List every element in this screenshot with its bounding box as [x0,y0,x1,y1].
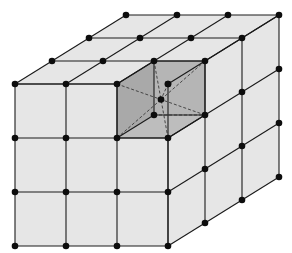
lattice-atom [165,243,172,250]
lattice-atom [114,243,121,250]
lattice-atom [63,135,70,142]
lattice-atom [12,135,19,142]
lattice-atom [86,35,93,42]
lattice-atom [49,58,56,65]
lattice-atom [12,243,19,250]
lattice-svg [0,0,292,253]
lattice-atom [188,35,195,42]
lattice-atom [239,35,246,42]
lattice-atom [137,35,144,42]
lattice-atom [202,166,209,173]
lattice-atom [276,66,283,73]
lattice-atom [114,189,121,196]
body-center-atom [158,96,165,103]
lattice-atom [239,89,246,96]
highlighted-cell-back-face [154,61,205,115]
lattice-atom [276,12,283,19]
lattice-atom [12,189,19,196]
lattice-atom [202,112,209,119]
lattice-atom [276,174,283,181]
lattice-atom [151,112,158,119]
lattice-atom [165,189,172,196]
lattice-atom [100,58,107,65]
lattice-atom [12,81,19,88]
lattice-atom [202,58,209,65]
lattice-atom [63,243,70,250]
lattice-atom [276,120,283,127]
lattice-atom [239,197,246,204]
lattice-atom [63,81,70,88]
lattice-atom [123,12,130,19]
lattice-atom [114,135,121,142]
lattice-atom [239,143,246,150]
lattice-atom [202,220,209,227]
lattice-atom [151,58,158,65]
lattice-atom [165,81,172,88]
lattice-atom [174,12,181,19]
lattice-atom [165,135,172,142]
lattice-atom [114,81,121,88]
lattice-atom [63,189,70,196]
lattice-diagram: Cubic crystal lattice with highlighted u… [0,0,292,253]
lattice-atom [225,12,232,19]
